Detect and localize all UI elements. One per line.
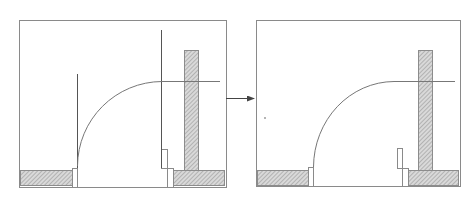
door-swing-diagram xyxy=(0,0,476,197)
left-door-jamb xyxy=(309,168,314,187)
right-wall-column-hatched xyxy=(185,51,199,171)
right-wall-base-hatched xyxy=(409,171,459,186)
right-door-jamb xyxy=(403,169,409,187)
right-door-jamb xyxy=(168,169,174,188)
right-wall-base-hatched xyxy=(174,171,225,186)
left-wall-hatched xyxy=(258,171,309,186)
panel-before xyxy=(20,21,227,188)
panel-after xyxy=(257,21,461,187)
marker-dot xyxy=(264,117,266,119)
left-door-jamb xyxy=(73,169,78,188)
diagram-stage xyxy=(0,0,476,197)
door-stop xyxy=(398,149,403,169)
right-wall-column-hatched xyxy=(419,51,433,171)
left-wall-hatched xyxy=(21,171,73,186)
door-stop xyxy=(162,150,168,169)
